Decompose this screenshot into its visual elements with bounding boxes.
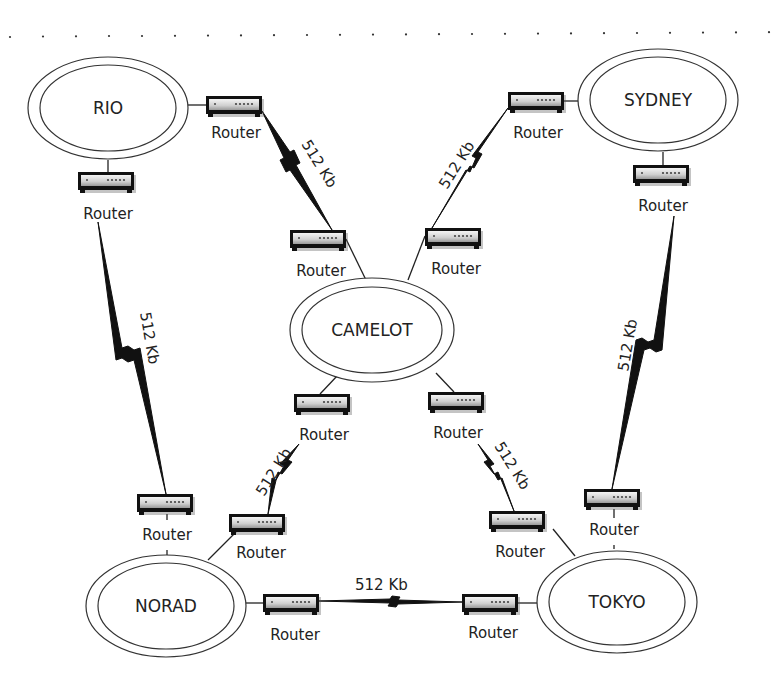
site-label-sydney: SYDNEY [624, 90, 693, 110]
speed-label-camelot-tokyo: 512 Kb [491, 439, 534, 493]
site-camelot[interactable]: CAMELOT [290, 278, 454, 382]
router-r13[interactable]: Router [263, 594, 321, 644]
router-r9[interactable]: Router [137, 494, 195, 544]
router-label: Router [468, 624, 519, 642]
site-sydney[interactable]: SYDNEY [578, 49, 738, 151]
router-label: Router [513, 124, 564, 142]
router-icon [508, 92, 566, 113]
router-icon [489, 511, 547, 532]
router-label: Router [83, 205, 134, 223]
router-r12[interactable]: Router [489, 511, 547, 561]
site-label-tokyo: TOKYO [587, 592, 645, 612]
router-label: Router [589, 521, 640, 539]
router-icon [206, 96, 264, 117]
router-r10[interactable]: Router [229, 514, 287, 562]
router-r2[interactable]: Router [78, 172, 136, 223]
router-icon [294, 394, 352, 415]
router-r7[interactable]: Router [294, 394, 352, 444]
router-r14[interactable]: Router [462, 594, 520, 642]
router-r5[interactable]: Router [508, 92, 566, 142]
site-tokyo[interactable]: TOKYO [537, 551, 697, 653]
router-icon [137, 494, 195, 515]
router-r11[interactable]: Router [584, 489, 642, 539]
router-label: Router [495, 543, 546, 561]
router-label: Router [142, 526, 193, 544]
router-icon [229, 514, 287, 535]
router-label: Router [431, 260, 482, 278]
speed-label-sydney-camelot: 512 Kb [435, 138, 478, 192]
dotted-separator [9, 31, 770, 38]
link-norad-tokyo [319, 596, 462, 607]
router-r6[interactable]: Router [633, 165, 691, 215]
site-label-norad: NORAD [135, 596, 197, 616]
router-icon [633, 165, 691, 186]
router-icon [428, 392, 486, 413]
router-icon [462, 594, 520, 615]
router-r3[interactable]: Router [290, 230, 348, 280]
router-label: Router [296, 262, 347, 280]
site-label-camelot: CAMELOT [331, 320, 413, 340]
network-diagram: 512 Kb 512 Kb 512 Kb 512 Kb 512 Kb 512 K… [0, 0, 776, 696]
router-label: Router [433, 424, 484, 442]
speed-label-norad-tokyo: 512 Kb [355, 576, 408, 594]
site-rio[interactable]: RIO [28, 57, 188, 159]
router-r1[interactable]: Router [206, 96, 264, 142]
router-icon [290, 230, 348, 251]
router-label: Router [638, 197, 689, 215]
router-r4[interactable]: Router [425, 228, 483, 278]
router-label: Router [299, 426, 350, 444]
router-icon [78, 172, 136, 193]
site-norad[interactable]: NORAD [86, 555, 246, 657]
router-icon [425, 228, 483, 249]
router-icon [584, 489, 642, 510]
router-label: Router [270, 626, 321, 644]
router-label: Router [211, 124, 262, 142]
site-label-rio: RIO [93, 98, 123, 118]
router-label: Router [236, 544, 287, 562]
router-icon [263, 594, 321, 615]
router-r8[interactable]: Router [428, 392, 486, 442]
